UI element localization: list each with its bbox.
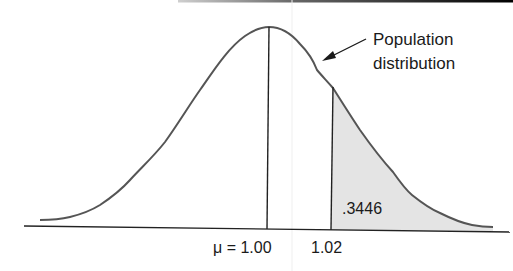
normal-distribution-figure: Population distribution .3446 μ = 1.00 1… (0, 0, 513, 271)
cutoff-label: 1.02 (311, 239, 342, 256)
mean-label: μ = 1.00 (213, 239, 272, 256)
annotation-arrow (322, 39, 366, 61)
mean-line (267, 27, 269, 229)
top-rule (178, 0, 513, 3)
annotation-label-line2: distribution (373, 54, 455, 73)
shaded-area-value: .3446 (342, 200, 382, 217)
annotation-label-line1: Population (373, 30, 453, 49)
